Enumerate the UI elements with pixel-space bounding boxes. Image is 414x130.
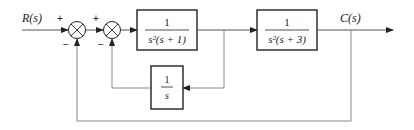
g1-numerator: 1 — [164, 16, 170, 28]
block-diagram: R(s) + − + − 1 s²(s + 1) 1 s²(s + 3) C — [0, 0, 414, 130]
sum2-plus-sign: + — [93, 13, 99, 24]
sum1-minus-sign: − — [63, 39, 69, 50]
output-label: C(s) — [340, 11, 361, 25]
h1-numerator: 1 — [165, 74, 170, 85]
sum2-minus-sign: − — [98, 39, 104, 50]
g2-denominator: s²(s + 3) — [268, 33, 306, 46]
summing-junction-2: + − — [93, 13, 121, 50]
h1-denominator: s — [165, 90, 169, 101]
summing-junction-1: + − — [57, 13, 86, 50]
block-g2: 1 s²(s + 3) — [257, 10, 317, 50]
g2-numerator: 1 — [284, 16, 290, 28]
block-g1: 1 s²(s + 1) — [137, 10, 197, 50]
output-signal: C(s) — [317, 11, 393, 30]
g1-denominator: s²(s + 1) — [148, 33, 186, 46]
input-label: R(s) — [21, 11, 42, 25]
sum1-plus-sign: + — [57, 13, 63, 24]
block-h1: 1 s — [151, 66, 183, 109]
